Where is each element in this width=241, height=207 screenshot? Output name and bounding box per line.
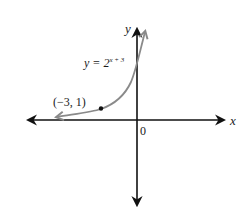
point-label: (−3, 1)	[53, 96, 86, 108]
point-neg3-1	[99, 106, 103, 110]
origin-label: 0	[140, 125, 146, 137]
x-axis-label: x	[230, 114, 236, 127]
equation-base: y = 2	[84, 56, 109, 70]
equation-exponent: x + 3	[109, 56, 124, 64]
equation-label: y = 2x + 3	[84, 57, 124, 69]
exponential-graph	[0, 0, 241, 207]
y-axis-label: y	[125, 22, 131, 35]
